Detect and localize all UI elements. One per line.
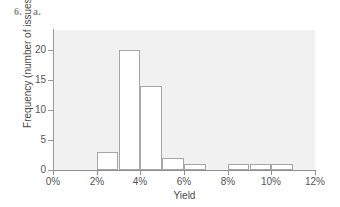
histogram-figure: 6. a. 05101520 0%2%4%6%8%10%12% Yield Fr…: [0, 0, 340, 207]
y-axis-title: Frequency (number of issues): [22, 0, 33, 137]
y-axis-tick: [48, 50, 53, 51]
y-axis-tick-label: 10: [35, 104, 46, 115]
histogram-bar: [119, 50, 141, 170]
x-axis-tick-label: 0%: [33, 176, 73, 187]
y-axis-tick: [48, 140, 53, 141]
x-axis-tick: [97, 170, 98, 175]
y-axis-tick-label: 15: [35, 74, 46, 85]
y-axis-tick-label: 0: [40, 164, 46, 175]
x-axis-tick-label: 2%: [77, 176, 117, 187]
x-axis-tick: [228, 170, 229, 175]
y-axis-line: [53, 29, 54, 171]
x-axis-tick-label: 10%: [251, 176, 291, 187]
x-axis-tick: [140, 170, 141, 175]
y-axis-tick: [48, 80, 53, 81]
x-axis-tick: [271, 170, 272, 175]
histogram-bar: [162, 158, 184, 170]
plot-background: [53, 30, 315, 170]
histogram-bar: [140, 86, 162, 170]
x-axis-tick: [184, 170, 185, 175]
x-axis-title: Yield: [53, 190, 316, 201]
y-axis-tick-label: 20: [35, 44, 46, 55]
x-axis-tick-label: 12%: [295, 176, 335, 187]
x-axis-tick-label: 4%: [120, 176, 160, 187]
histogram-bar: [97, 152, 119, 170]
x-axis-tick: [315, 170, 316, 175]
y-axis-tick-label: 5: [40, 134, 46, 145]
plot-area: [53, 30, 315, 170]
x-axis-tick-label: 8%: [208, 176, 248, 187]
x-axis-tick: [53, 170, 54, 175]
x-axis-tick-label: 6%: [164, 176, 204, 187]
y-axis-tick: [48, 110, 53, 111]
